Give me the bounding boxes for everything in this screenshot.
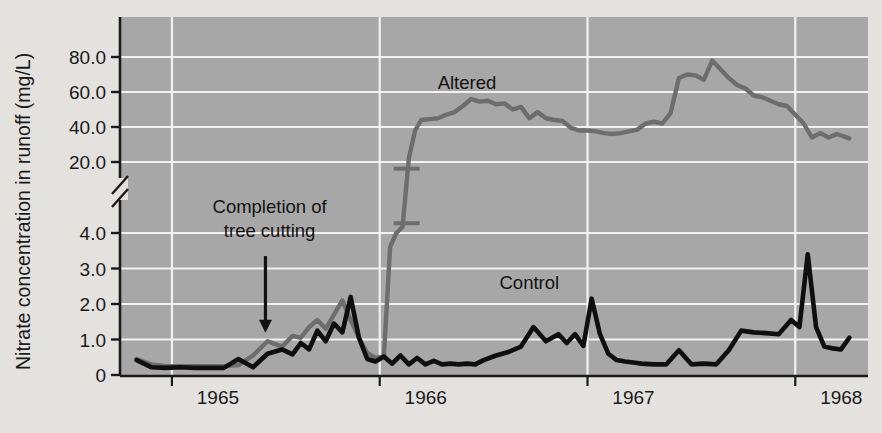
y-tick-label: 1.0 [80, 330, 106, 351]
series-label-altered: Altered [438, 72, 497, 93]
y-tick-label: 4.0 [80, 223, 106, 244]
x-tick-label: 1968 [820, 387, 862, 408]
annotation-text-line1: Completion of [213, 196, 328, 217]
x-tick-label: 1967 [612, 387, 654, 408]
y-tick-label: 20.0 [69, 152, 106, 173]
series-label-control: Control [500, 272, 560, 293]
y-tick-label: 0 [95, 365, 106, 386]
y-tick-label: 40.0 [69, 117, 106, 138]
y-tick-label: 60.0 [69, 82, 106, 103]
x-tick-label: 1965 [197, 387, 239, 408]
chart-svg: 01.02.03.04.020.040.060.080.0 1965196619… [0, 0, 882, 433]
y-axis-title: Nitrate concentration in runoff (mg/L) [12, 53, 34, 370]
chart-figure: 01.02.03.04.020.040.060.080.0 1965196619… [0, 0, 882, 433]
y-tick-label: 2.0 [80, 294, 106, 315]
annotation-text-line2: tree cutting [224, 220, 316, 241]
y-tick-label: 3.0 [80, 259, 106, 280]
x-tick-label: 1966 [405, 387, 447, 408]
y-tick-label: 80.0 [69, 47, 106, 68]
